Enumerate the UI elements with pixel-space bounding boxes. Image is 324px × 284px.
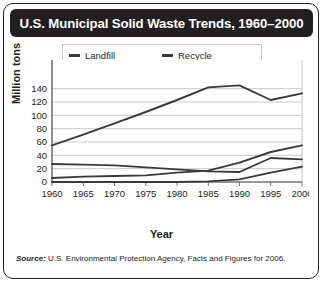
y-tick-label: 20 bbox=[36, 163, 47, 174]
plot-area: Landfill Recycle Incinerator Composting … bbox=[14, 42, 309, 248]
y-tick-label: 80 bbox=[36, 123, 47, 134]
line-chart: 0204060801001201401960196519701975198019… bbox=[14, 42, 309, 228]
chart-card: U.S. Municipal Solid Waste Trends, 1960–… bbox=[3, 3, 319, 279]
x-tick-label: 1985 bbox=[198, 188, 219, 199]
x-tick-label: 2000 bbox=[291, 188, 309, 199]
y-tick-label: 100 bbox=[31, 110, 47, 121]
x-axis-label: Year bbox=[14, 228, 309, 240]
x-tick-label: 1990 bbox=[229, 188, 250, 199]
source-note: Source: U.S. Environmental Protection Ag… bbox=[16, 254, 316, 263]
page-title: U.S. Municipal Solid Waste Trends, 1960–… bbox=[20, 16, 304, 31]
y-tick-label: 60 bbox=[36, 136, 47, 147]
x-tick-label: 1965 bbox=[73, 188, 94, 199]
plot-background bbox=[52, 60, 302, 182]
y-tick-label: 40 bbox=[36, 150, 47, 161]
y-tick-label: 0 bbox=[42, 176, 47, 187]
y-tick-label: 120 bbox=[31, 96, 47, 107]
x-tick-label: 1980 bbox=[166, 188, 187, 199]
x-tick-label: 1970 bbox=[104, 188, 125, 199]
y-tick-label: 140 bbox=[31, 83, 47, 94]
x-tick-label: 1995 bbox=[260, 188, 281, 199]
chart-title-bar: U.S. Municipal Solid Waste Trends, 1960–… bbox=[10, 9, 313, 37]
source-text: U.S. Environmental Protection Agency, Fa… bbox=[46, 254, 286, 263]
source-label: Source: bbox=[16, 254, 46, 263]
chart-svg-container: 0204060801001201401960196519701975198019… bbox=[14, 42, 309, 228]
x-tick-label: 1975 bbox=[135, 188, 156, 199]
x-tick-label: 1960 bbox=[41, 188, 62, 199]
